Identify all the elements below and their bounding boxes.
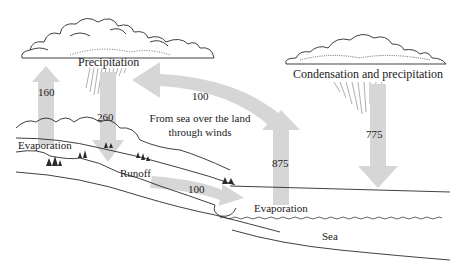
value-runoff: 100 — [188, 183, 205, 195]
value-wind-transport: 100 — [192, 90, 209, 102]
value-land-precipitation: 260 — [97, 111, 114, 123]
value-land-evaporation: 160 — [38, 86, 55, 98]
wind-label-line1: From sea over the land — [130, 112, 270, 124]
arrow-land-evaporation — [32, 66, 60, 145]
left-cloud-label: Precipitation — [78, 56, 139, 68]
label-sea-evaporation: Evaporation — [254, 202, 308, 214]
value-sea-evaporation: 875 — [272, 157, 289, 169]
right-cloud — [286, 34, 446, 64]
right-cloud-label: Condensation and precipitation — [293, 68, 443, 80]
label-runoff: Runoff — [120, 167, 151, 179]
label-land-evaporation: Evaporation — [18, 139, 72, 151]
label-sea: Sea — [322, 230, 338, 242]
wind-label-line2: through winds — [130, 126, 270, 138]
left-cloud — [22, 18, 214, 58]
value-sea-precipitation: 775 — [366, 128, 383, 140]
